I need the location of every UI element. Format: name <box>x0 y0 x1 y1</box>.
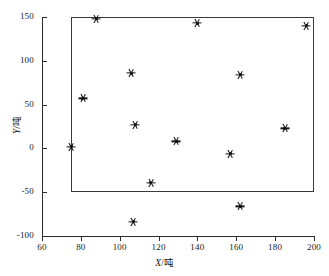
y-axis-tick-label: -100 <box>2 230 34 240</box>
y-axis-tick-label: 150 <box>2 11 34 21</box>
x-axis-tick <box>275 237 276 241</box>
y-axis-tick <box>43 61 47 62</box>
data-point-marker <box>302 21 311 30</box>
y-axis-tick <box>43 192 47 193</box>
data-point-marker <box>236 202 245 211</box>
x-axis-tick-label: 120 <box>144 242 174 252</box>
data-point-marker <box>131 120 140 129</box>
x-axis-line <box>42 236 315 237</box>
x-axis-tick-label: 60 <box>27 242 57 252</box>
boundary-rectangle <box>71 17 314 192</box>
data-point-marker <box>127 69 136 78</box>
x-axis-tick-label: 180 <box>260 242 290 252</box>
x-axis-label: X/吨 <box>0 255 329 269</box>
y-axis-tick <box>43 236 47 237</box>
y-axis-tick-label: -50 <box>2 186 34 196</box>
x-axis-tick <box>81 237 82 241</box>
x-axis-label-unit: /吨 <box>161 258 174 268</box>
x-axis-tick <box>42 237 43 241</box>
x-axis-tick-label: 80 <box>66 242 96 252</box>
x-axis-tick <box>236 237 237 241</box>
y-axis-tick-label: 100 <box>2 55 34 65</box>
x-axis-tick-label: 140 <box>182 242 212 252</box>
x-axis-tick <box>159 237 160 241</box>
x-axis-tick-label: 160 <box>221 242 251 252</box>
x-axis-tick <box>120 237 121 241</box>
data-point-marker <box>67 142 76 151</box>
y-axis-label-unit: /吨 <box>12 116 22 129</box>
data-point-marker <box>193 19 202 28</box>
data-point-marker <box>92 14 101 23</box>
y-axis-tick <box>43 105 47 106</box>
y-axis-label-variable: Y <box>12 129 22 134</box>
data-point-marker <box>78 94 87 103</box>
y-axis-tick <box>43 148 47 149</box>
scatter-chart-figure: 6080100120140160180200-100-50050100150 X… <box>0 0 329 276</box>
data-point-marker <box>146 178 155 187</box>
x-axis-tick-label: 100 <box>105 242 135 252</box>
y-axis-line <box>42 17 43 237</box>
x-axis-tick <box>314 237 315 241</box>
data-point-marker <box>172 137 181 146</box>
x-axis-tick-label: 200 <box>299 242 329 252</box>
y-axis-tick <box>43 17 47 18</box>
data-point-marker <box>280 124 289 133</box>
data-point-marker <box>226 149 235 158</box>
data-point-marker <box>236 70 245 79</box>
data-point-marker <box>129 217 138 226</box>
x-axis-tick <box>197 237 198 241</box>
y-axis-label: Y/吨 <box>9 95 23 155</box>
